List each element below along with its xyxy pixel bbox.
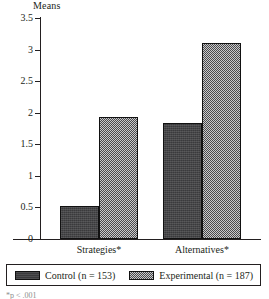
y-axis-tick xyxy=(35,239,40,240)
y-axis-title: Means xyxy=(33,0,61,11)
legend-item-control: Control (n = 153) xyxy=(15,270,115,281)
y-axis-tick-label: 2 xyxy=(0,107,33,118)
y-axis-tick-label: 0.5 xyxy=(0,201,33,212)
bar-experimental-2 xyxy=(202,43,241,239)
legend-swatch-experimental-icon xyxy=(129,271,154,280)
y-axis-tick-label: 3 xyxy=(0,44,33,55)
legend-label-experimental: Experimental (n = 187) xyxy=(159,270,253,281)
bar-chart-figure: Means 00.511.522.533.5 Strategies*Altern… xyxy=(0,0,269,299)
x-axis-label-1: Strategies* xyxy=(49,244,149,255)
y-axis-tick-label: 1 xyxy=(0,170,33,181)
bar-experimental-1 xyxy=(99,117,138,239)
x-axis-label-2: Alternatives* xyxy=(152,244,252,255)
legend-item-experimental: Experimental (n = 187) xyxy=(129,270,253,281)
y-axis-tick-label: 0 xyxy=(0,233,33,244)
chart-footnote: *p < .001 xyxy=(6,291,37,299)
y-axis-tick-label: 2.5 xyxy=(0,75,33,86)
chart-legend: Control (n = 153) Experimental (n = 187) xyxy=(6,264,261,286)
y-axis-tick-label: 1.5 xyxy=(0,138,33,149)
legend-label-control: Control (n = 153) xyxy=(45,270,115,281)
bar-control-2 xyxy=(163,123,202,239)
legend-swatch-control-icon xyxy=(15,271,40,280)
y-axis-tick-label: 3.5 xyxy=(0,12,33,23)
bars-layer xyxy=(40,18,261,239)
bar-control-1 xyxy=(60,206,99,239)
x-axis-line xyxy=(13,239,261,240)
